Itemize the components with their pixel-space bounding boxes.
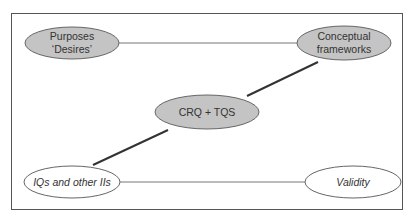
iqs-line-1: IQs and other IIs — [33, 176, 111, 189]
node-purposes-label: Purposes ‘Desires’ — [50, 30, 94, 56]
node-conceptual-label: Conceptual frameworks — [317, 30, 371, 56]
conceptual-line-2: frameworks — [317, 43, 371, 56]
validity-line-1: Validity — [336, 176, 369, 189]
crq-line-1: CRQ + TQS — [179, 106, 236, 119]
node-validity-label: Validity — [336, 176, 369, 189]
purposes-line-1: Purposes — [50, 30, 94, 43]
edge-conceptual-crq — [247, 62, 318, 96]
node-iqs-label: IQs and other IIs — [33, 176, 111, 189]
purposes-line-2: ‘Desires’ — [50, 43, 94, 56]
node-crq-label: CRQ + TQS — [179, 106, 236, 119]
conceptual-line-1: Conceptual — [317, 30, 371, 43]
edge-crq-iqs — [93, 130, 168, 165]
